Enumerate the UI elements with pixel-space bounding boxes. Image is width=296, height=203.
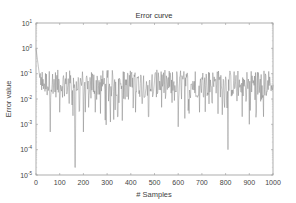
x-tick-label: 200 — [78, 179, 90, 186]
x-tick-label: 500 — [149, 179, 161, 186]
y-tick-label: 10-4 — [20, 145, 32, 153]
x-tick-label: 0 — [34, 179, 38, 186]
x-tick-label: 300 — [101, 179, 113, 186]
x-tick-label: 700 — [196, 179, 208, 186]
y-axis-label: Error value — [4, 81, 13, 118]
y-tick-label: 10-2 — [20, 95, 32, 103]
chart-title: Error curve — [135, 11, 172, 20]
error-series-line — [36, 48, 273, 167]
plot-area: 01002003004005006007008009001000 10-510-… — [20, 19, 281, 187]
x-tick-label: 800 — [220, 179, 232, 186]
x-axis-ticks: 01002003004005006007008009001000 — [34, 23, 281, 186]
x-axis-label: # Samples — [136, 190, 172, 199]
y-tick-label: 10-3 — [20, 120, 32, 128]
x-tick-label: 100 — [54, 179, 66, 186]
x-tick-label: 400 — [125, 179, 137, 186]
x-tick-label: 600 — [172, 179, 184, 186]
y-tick-label: 10-5 — [20, 171, 32, 179]
x-tick-label: 900 — [243, 179, 255, 186]
y-axis-ticks: 10-510-410-310-210-1100101 — [20, 19, 273, 179]
error-curve-line — [36, 48, 273, 167]
chart-figure: Error curve 0100200300400500600700800900… — [0, 0, 296, 203]
y-tick-label: 101 — [22, 19, 33, 27]
y-tick-label: 100 — [22, 44, 33, 52]
x-tick-label: 1000 — [265, 179, 281, 186]
y-tick-label: 10-1 — [20, 69, 32, 77]
